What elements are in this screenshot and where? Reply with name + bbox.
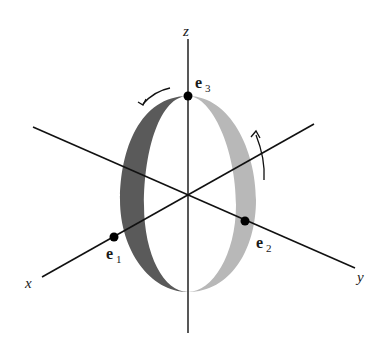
z-axis-label: z — [182, 23, 189, 39]
x-axis-line — [42, 124, 314, 277]
ring-light-half — [188, 96, 256, 292]
arrowhead-right-icon — [251, 131, 260, 138]
rotation-arrow-right-icon — [256, 135, 264, 180]
point-e1 — [110, 233, 119, 242]
e2-label: e — [256, 234, 263, 251]
e1-label: e — [106, 245, 113, 262]
e2-subscript: 2 — [266, 242, 272, 254]
e3-label: e — [195, 74, 202, 91]
e1-subscript: 1 — [116, 253, 122, 265]
y-axis-line — [33, 127, 355, 268]
arrowhead-left-icon — [138, 99, 146, 105]
point-e3 — [184, 92, 193, 101]
e3-subscript: 3 — [205, 82, 211, 94]
rotating-ring-diagram: z x y e 3 e 1 e 2 — [0, 0, 387, 352]
x-axis-label: x — [24, 275, 32, 291]
y-axis-label: y — [355, 269, 364, 285]
point-e2 — [241, 217, 250, 226]
